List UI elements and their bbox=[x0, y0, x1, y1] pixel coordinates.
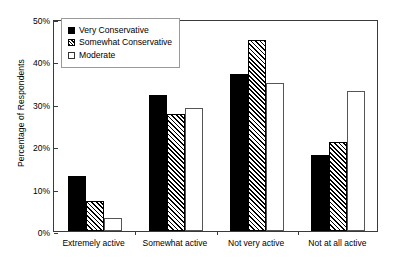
x-axis-label: Somewhat active bbox=[134, 238, 215, 248]
bar bbox=[248, 40, 266, 231]
bar bbox=[167, 114, 185, 231]
x-tick-mark bbox=[298, 231, 299, 235]
y-tick-label: 40% bbox=[33, 59, 50, 68]
legend-label-very-conservative: Very Conservative bbox=[79, 25, 149, 36]
x-axis-label: Not very active bbox=[216, 238, 297, 248]
bar bbox=[86, 201, 104, 231]
bar bbox=[329, 142, 347, 231]
legend-label-somewhat-conservative: Somewhat Conservative bbox=[79, 37, 172, 48]
legend-swatch-somewhat-conservative bbox=[68, 39, 75, 46]
bar bbox=[149, 95, 167, 231]
y-tick-label: 20% bbox=[33, 144, 50, 153]
y-tick-mark bbox=[54, 233, 58, 234]
bar-group bbox=[217, 21, 298, 231]
x-axis-label: Extremely active bbox=[53, 238, 134, 248]
bar-chart: Percentage of Respondents 0%10%20%30%40%… bbox=[0, 0, 395, 277]
x-axis-label: Not at all active bbox=[297, 238, 378, 248]
y-tick-label: 50% bbox=[33, 17, 50, 26]
bar bbox=[230, 74, 248, 231]
bar bbox=[347, 91, 365, 231]
y-tick-label: 10% bbox=[33, 186, 50, 195]
bar bbox=[185, 108, 203, 231]
bar bbox=[68, 176, 86, 231]
bar bbox=[104, 218, 122, 231]
legend-swatch-very-conservative bbox=[68, 27, 75, 34]
bar bbox=[266, 83, 284, 231]
bar bbox=[311, 155, 329, 231]
legend-swatch-moderate bbox=[68, 52, 75, 59]
legend-item-very-conservative: Very Conservative bbox=[68, 25, 172, 36]
x-tick-mark bbox=[217, 231, 218, 235]
chart-legend: Very Conservative Somewhat Conservative … bbox=[61, 18, 180, 68]
y-tick-label: 0% bbox=[38, 229, 50, 238]
y-axis-title: Percentage of Respondents bbox=[16, 28, 26, 198]
bar-group bbox=[298, 21, 379, 231]
legend-item-somewhat-conservative: Somewhat Conservative bbox=[68, 37, 172, 48]
legend-label-moderate: Moderate bbox=[79, 50, 115, 61]
x-tick-mark bbox=[135, 231, 136, 235]
legend-item-moderate: Moderate bbox=[68, 50, 172, 61]
y-tick-label: 30% bbox=[33, 102, 50, 111]
